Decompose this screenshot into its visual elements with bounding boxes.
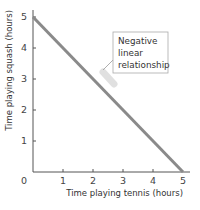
y-tick-label: 4 bbox=[21, 42, 27, 53]
x-tick-label: 1 bbox=[60, 175, 66, 186]
x-tick-label: 3 bbox=[120, 175, 126, 186]
x-tick-label: 4 bbox=[150, 175, 156, 186]
y-tick-label: 5 bbox=[21, 11, 27, 22]
y-tick-label: 3 bbox=[21, 73, 27, 84]
x-tick-label: 2 bbox=[90, 175, 96, 186]
x-tick-label: 0 bbox=[21, 175, 27, 186]
x-axis-label: Time playing tennis (hours) bbox=[65, 188, 183, 198]
y-axis-label: Time playing squash (hours) bbox=[4, 10, 14, 132]
annotation-line-3: relationship bbox=[118, 60, 170, 70]
line-highlight bbox=[103, 72, 114, 84]
y-tick-label: 1 bbox=[21, 135, 27, 146]
annotation-line-2: linear bbox=[118, 48, 143, 58]
annotation-line-1: Negative bbox=[118, 36, 157, 46]
chart: 1 2 3 4 5 0 1 2 3 4 5 Time playing tenni… bbox=[0, 0, 200, 210]
y-tick-label: 2 bbox=[21, 104, 27, 115]
x-tick-label: 5 bbox=[180, 175, 186, 186]
